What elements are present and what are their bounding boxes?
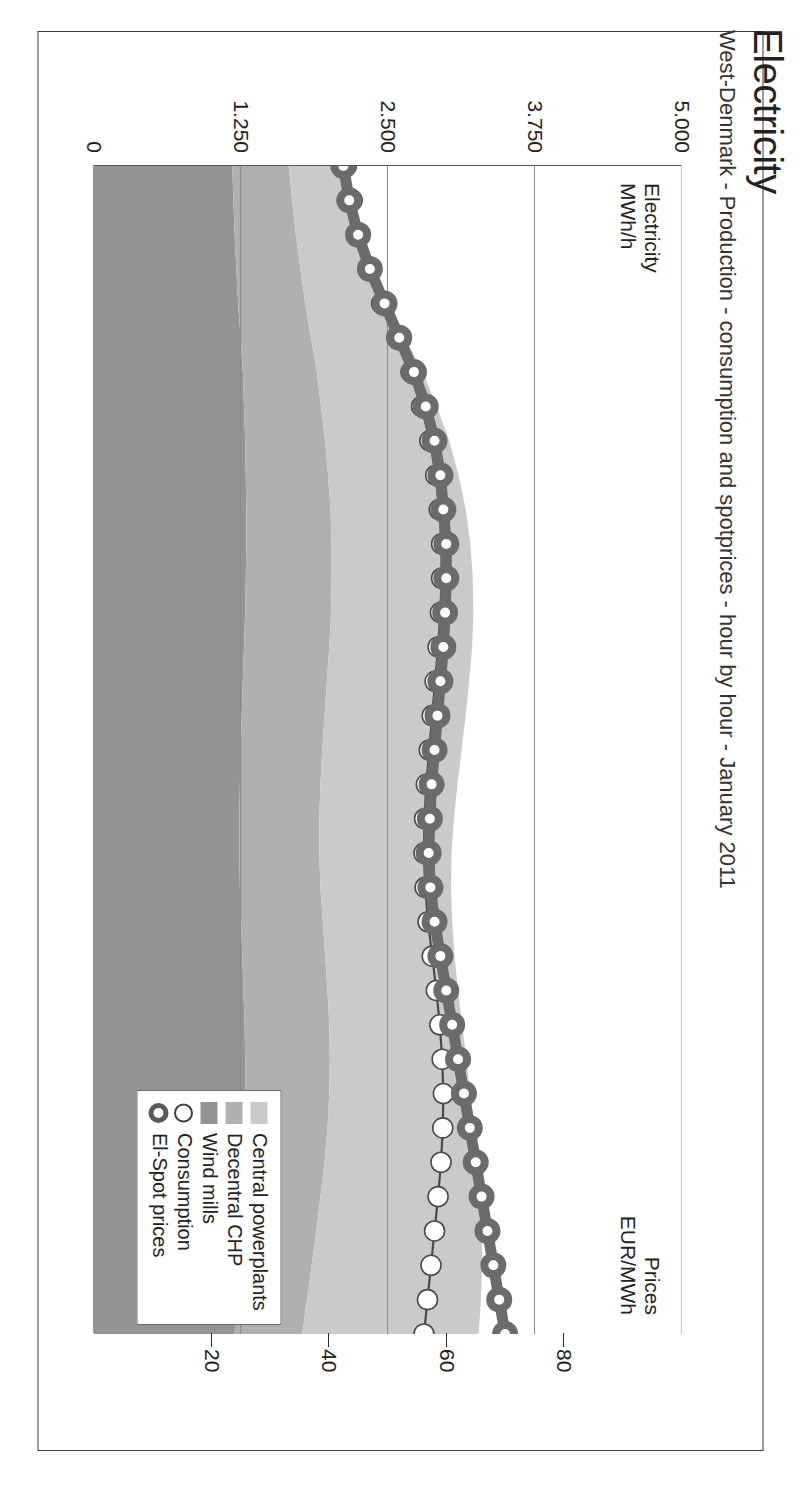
legend-item[interactable]: Consumption <box>171 1102 196 1311</box>
left-axis-tick-label: 5.000 <box>669 100 693 165</box>
marker-ring <box>340 191 358 209</box>
marker-ring <box>416 397 434 415</box>
marker-ring <box>434 501 452 519</box>
axis-title-line: EUR/MWh <box>616 1216 640 1315</box>
page-subtitle: West-Denmark - Production - consumption … <box>713 30 739 889</box>
legend-label: Central powerplants <box>247 1133 270 1311</box>
legend-item[interactable]: Central powerplants <box>246 1102 271 1311</box>
chart-canvas: Electricity West-Denmark - Production - … <box>0 0 801 1490</box>
marker-ring <box>360 260 378 278</box>
marker-ring <box>431 672 449 690</box>
marker-ring <box>428 707 446 725</box>
marker-ring <box>443 1016 461 1034</box>
marker-ring <box>436 604 454 622</box>
marker-ring <box>437 981 455 999</box>
right-axis-tick-mark <box>563 1333 564 1347</box>
marker-ring <box>490 1291 508 1309</box>
marker-open-circle <box>424 1221 444 1241</box>
left-axis-tick-label: 3.750 <box>522 100 546 165</box>
axis-title-line: Electricity <box>639 183 663 273</box>
right-axis-tick-mark <box>210 1333 211 1347</box>
legend-item[interactable]: Wind mills <box>196 1102 221 1311</box>
right-axis-title: PricesEUR/MWh <box>616 1216 663 1315</box>
marker-ring <box>419 844 437 862</box>
marker-ring <box>349 226 367 244</box>
marker-open-circle <box>428 1187 448 1207</box>
legend-item[interactable]: Decentral CHP <box>221 1102 246 1311</box>
legend-ring-icon <box>148 1102 170 1124</box>
marker-ring <box>425 432 443 450</box>
right-axis-tick-mark <box>328 1333 329 1347</box>
marker-ring <box>466 1153 484 1171</box>
marker-ring <box>478 1222 496 1240</box>
marker-open-circle <box>432 1118 452 1138</box>
legend-label: Wind mills <box>197 1133 220 1224</box>
left-axis-title: ElectricityMWh/h <box>616 183 663 273</box>
marker-ring <box>425 913 443 931</box>
marker-ring <box>431 466 449 484</box>
legend-swatch-icon <box>225 1102 242 1124</box>
legend-label: El-Spot prices <box>147 1133 170 1258</box>
legend-label: Consumption <box>172 1133 195 1251</box>
right-axis-tick-mark <box>445 1333 446 1347</box>
left-axis-tick-label: 2.500 <box>375 100 399 165</box>
marker-ring <box>421 878 439 896</box>
marker-open-circle <box>431 1152 451 1172</box>
marker-ring <box>425 741 443 759</box>
marker-ring <box>431 947 449 965</box>
marker-ring <box>334 166 352 175</box>
marker-ring <box>454 1085 472 1103</box>
legend-label: Decentral CHP <box>222 1133 245 1266</box>
marker-ring <box>460 1119 478 1137</box>
axis-title-line: MWh/h <box>616 183 640 273</box>
legend-swatch-icon <box>200 1102 217 1124</box>
marker-ring <box>437 535 455 553</box>
marker-ring <box>422 775 440 793</box>
marker-open-circle <box>421 1255 441 1275</box>
chart-legend: Central powerplantsDecentral CHPWind mil… <box>136 1090 281 1325</box>
marker-ring <box>484 1256 502 1274</box>
marker-ring <box>472 1188 490 1206</box>
marker-open-circle <box>433 1084 453 1104</box>
legend-item[interactable]: El-Spot prices <box>146 1102 171 1311</box>
marker-ring <box>437 569 455 587</box>
left-axis-tick-label: 1.250 <box>228 100 252 165</box>
marker-ring <box>434 638 452 656</box>
marker-ring <box>404 363 422 381</box>
marker-ring <box>375 294 393 312</box>
axis-title-line: Prices <box>639 1216 663 1315</box>
left-axis-tick-label: 0 <box>81 141 105 165</box>
marker-ring <box>496 1325 514 1334</box>
page-title: Electricity <box>744 28 789 194</box>
legend-circle-icon <box>173 1102 195 1124</box>
legend-swatch-icon <box>250 1102 267 1124</box>
marker-open-circle <box>417 1290 437 1310</box>
marker-ring <box>390 329 408 347</box>
marker-ring <box>449 1050 467 1068</box>
marker-ring <box>420 810 438 828</box>
